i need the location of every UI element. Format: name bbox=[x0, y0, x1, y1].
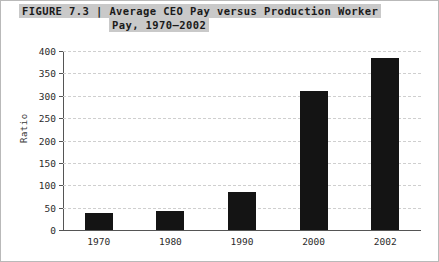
gridline bbox=[63, 163, 421, 164]
figure-container: FIGURE 7.3 | Average CEO Pay versus Prod… bbox=[0, 0, 439, 262]
y-tick-mark bbox=[59, 51, 63, 52]
y-tick-mark bbox=[59, 141, 63, 142]
caption-line-2: Pay, 1970–2002 bbox=[109, 18, 209, 32]
y-tick-label: 300 bbox=[39, 90, 56, 101]
gridline bbox=[63, 73, 421, 74]
y-axis-title: Ratio bbox=[19, 113, 29, 143]
chart-plot: Ratio 050100150200250300350400 197019801… bbox=[1, 39, 439, 262]
y-tick-label: 400 bbox=[39, 46, 56, 57]
y-tick-label: 350 bbox=[39, 68, 56, 79]
y-tick-label: 50 bbox=[45, 202, 56, 213]
y-tick-label: 250 bbox=[39, 113, 56, 124]
gridline bbox=[63, 141, 421, 142]
y-tick-mark bbox=[59, 118, 63, 119]
y-tick-mark bbox=[59, 208, 63, 209]
gridline bbox=[63, 51, 421, 52]
x-tick-label: 1980 bbox=[159, 236, 182, 247]
figure-caption: FIGURE 7.3 | Average CEO Pay versus Prod… bbox=[19, 4, 415, 32]
y-tick-mark bbox=[59, 96, 63, 97]
y-tick-mark bbox=[59, 185, 63, 186]
y-tick-label: 200 bbox=[39, 135, 56, 146]
bar bbox=[228, 192, 256, 230]
y-tick-label: 150 bbox=[39, 157, 56, 168]
gridline bbox=[63, 118, 421, 119]
bar bbox=[300, 91, 328, 230]
caption-line-1: FIGURE 7.3 | Average CEO Pay versus Prod… bbox=[19, 4, 381, 18]
y-tick-label: 0 bbox=[50, 225, 56, 236]
y-tick-label: 100 bbox=[39, 180, 56, 191]
gridline bbox=[63, 96, 421, 97]
plot-area: 050100150200250300350400 197019801990200… bbox=[63, 51, 421, 230]
x-tick-label: 2002 bbox=[374, 236, 397, 247]
x-tick-label: 1970 bbox=[87, 236, 110, 247]
gridline bbox=[63, 185, 421, 186]
y-tick-mark bbox=[59, 73, 63, 74]
bar bbox=[156, 211, 184, 230]
y-tick-mark bbox=[59, 230, 63, 231]
bar bbox=[371, 58, 399, 230]
y-tick-mark bbox=[59, 163, 63, 164]
x-tick-label: 1990 bbox=[231, 236, 254, 247]
x-axis-line bbox=[63, 230, 421, 231]
bar bbox=[85, 213, 113, 230]
x-tick-label: 2000 bbox=[302, 236, 325, 247]
